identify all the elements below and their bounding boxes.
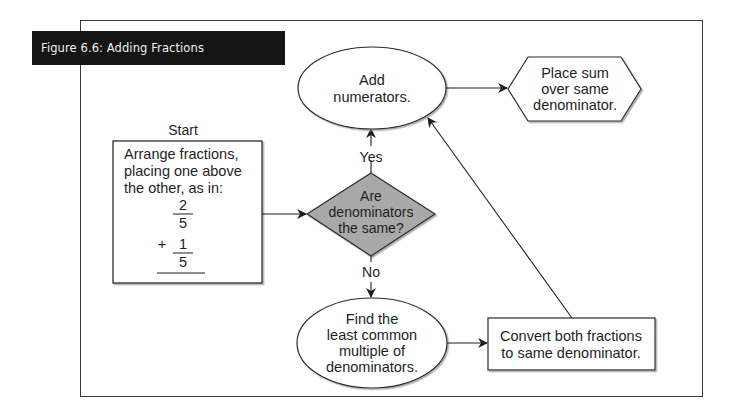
place-sum-line-3: denominator. (533, 97, 617, 113)
find-lcm-ellipse: Find the least common multiple of denomi… (297, 298, 447, 388)
fraction-2-numerator: 1 (179, 236, 187, 252)
fraction-2-denominator: 5 (179, 254, 187, 270)
lcm-text-line-1: Find the (346, 311, 398, 327)
add-text-line-1: Add (359, 72, 385, 88)
convert-box: Convert both fractions to same denominat… (488, 318, 655, 370)
start-text-line-2: placing one above (124, 163, 242, 179)
add-numerators-ellipse: Add numerators. (298, 47, 446, 129)
convert-text-line-1: Convert both fractions (500, 328, 642, 344)
fraction-1-denominator: 5 (179, 215, 187, 231)
convert-text-line-2: to same denominator. (501, 345, 640, 361)
place-sum-line-1: Place sum (541, 65, 609, 81)
start-text-line-1: Arrange fractions, (124, 146, 238, 162)
yes-label: Yes (360, 149, 383, 165)
start-text-line-3: the other, as in: (124, 180, 223, 196)
place-sum-line-2: over same (541, 81, 609, 97)
operator-plus: + (158, 236, 166, 252)
add-text-line-2: numerators. (333, 89, 410, 105)
arrow-convert-to-add (428, 118, 572, 318)
decision-text-line-3: the same? (338, 220, 404, 236)
lcm-text-line-3: multiple of (339, 343, 406, 359)
flowchart: Start Arrange fractions, placing one abo… (0, 0, 740, 415)
start-label: Start (168, 122, 198, 138)
lcm-text-line-4: denominators. (326, 359, 418, 375)
decision-text-line-2: denominators (329, 204, 414, 220)
start-box: Arrange fractions, placing one above the… (113, 141, 262, 283)
place-sum-hexagon: Place sum over same denominator. (508, 57, 641, 121)
no-label: No (362, 264, 380, 280)
decision-text-line-1: Are (360, 188, 382, 204)
fraction-1-numerator: 2 (179, 197, 187, 213)
lcm-text-line-2: least common (327, 327, 417, 343)
decision-diamond: Are denominators the same? (307, 173, 435, 256)
